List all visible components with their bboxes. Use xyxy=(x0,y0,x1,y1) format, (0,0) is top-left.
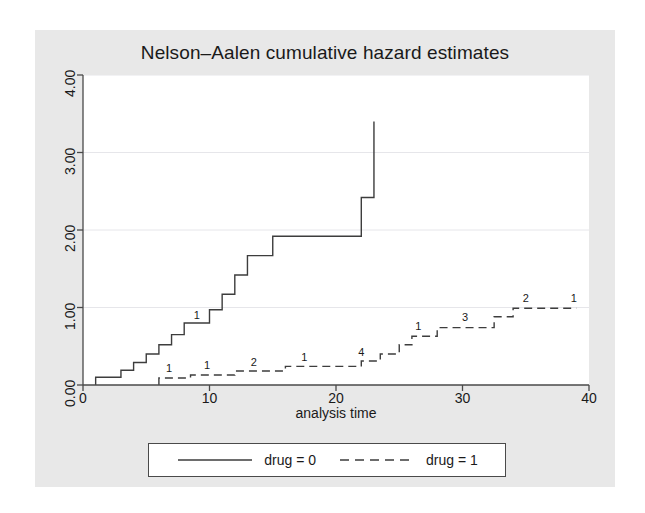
x-axis-title: analysis time xyxy=(83,405,589,421)
legend-label-drug-0: drug = 0 xyxy=(264,452,316,468)
x-tick-label: 20 xyxy=(311,390,361,406)
x-tick-label: 0 xyxy=(58,390,108,406)
legend-label-drug-1: drug = 1 xyxy=(426,452,478,468)
legend: drug = 0 drug = 1 xyxy=(148,443,506,477)
legend-swatch-solid xyxy=(176,454,254,466)
x-tick-label: 30 xyxy=(438,390,488,406)
chart-screenshot: Nelson–Aalen cumulative hazard estimates… xyxy=(0,0,645,513)
x-tick-label: 10 xyxy=(185,390,235,406)
x-tick-label: 40 xyxy=(564,390,614,406)
axes xyxy=(60,60,620,410)
legend-swatch-dashed xyxy=(338,454,416,466)
legend-item-drug-1[interactable]: drug = 1 xyxy=(338,452,478,468)
legend-item-drug-0[interactable]: drug = 0 xyxy=(176,452,316,468)
